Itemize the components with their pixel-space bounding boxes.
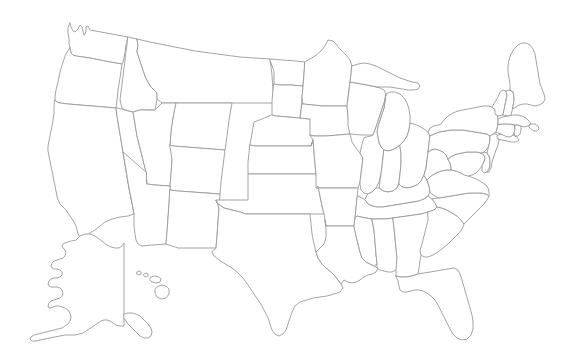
state-new-mexico <box>166 190 220 248</box>
state-hawaii-island-oahu <box>144 273 148 277</box>
us-map-svg <box>0 0 568 363</box>
state-north-dakota <box>270 59 305 86</box>
state-colorado <box>170 145 225 194</box>
state-rhode-island <box>514 125 521 136</box>
us-map-figure <box>0 0 568 363</box>
state-south-dakota <box>272 84 303 118</box>
state-hawaii-island-maui <box>150 276 161 283</box>
state-wyoming <box>170 103 232 150</box>
state-hawaii-island-hawaii <box>155 285 169 299</box>
state-hawaii-island-kauai <box>137 271 141 275</box>
state-nebraska <box>250 115 313 146</box>
